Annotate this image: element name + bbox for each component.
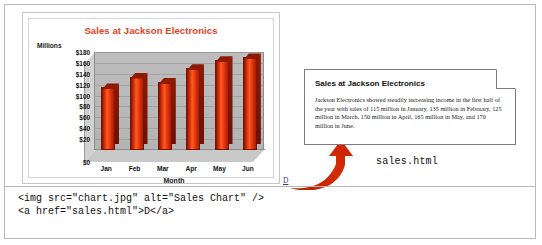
chart-y-tick-label: $20 xyxy=(79,136,90,143)
chart-title: Sales at Jackson Electronics xyxy=(29,25,273,36)
code-line-2: <a href="sales.html">D</a> xyxy=(18,206,174,217)
chart-y-tick-label: $180 xyxy=(76,49,90,56)
chart-bar-side-face xyxy=(114,83,119,144)
chart-floor-edge xyxy=(94,149,265,150)
chart-bar xyxy=(215,60,229,150)
chart-gridline xyxy=(94,85,264,86)
chart-y-tick-label: $60 xyxy=(79,114,90,121)
chart-gridline xyxy=(94,96,264,97)
sales-html-document: Sales at Jackson Electronics Jackson Ele… xyxy=(304,69,516,145)
chart-gridline xyxy=(94,63,264,64)
document-filename-label: sales.html xyxy=(376,156,438,167)
chart-plot-area: $0$20$40$60$80$100$120$140$160$180 JanFe… xyxy=(84,52,264,162)
chart-y-tick-label: $80 xyxy=(79,103,90,110)
chart-y-tick-label: $100 xyxy=(76,92,90,99)
document-heading: Sales at Jackson Electronics xyxy=(315,79,491,88)
chart-bar-side-face xyxy=(143,73,148,145)
chart-x-tick-label: May xyxy=(213,165,226,172)
chart-x-tick-label: Apr xyxy=(185,165,196,172)
chart-x-tick-label: Mar xyxy=(157,165,169,172)
chart-x-tick-label: Jan xyxy=(100,165,111,172)
chart-x-tick-label: Feb xyxy=(129,165,141,172)
chart-gridline xyxy=(94,74,264,75)
chart-bar xyxy=(186,68,200,150)
chart-y-tick-label: $140 xyxy=(76,70,90,77)
chart-back-wall xyxy=(94,52,264,150)
chart-y-axis-title: Millions xyxy=(37,42,62,49)
chart-bar xyxy=(101,87,115,150)
chart-x-axis-title: Month xyxy=(84,177,264,184)
chart-gridline xyxy=(94,117,264,118)
document-body-text: Jackson Electronics showed steadily incr… xyxy=(315,96,505,130)
chart-bar-side-face xyxy=(199,64,204,144)
chart-image-panel: Sales at Jackson Electronics Millions $0… xyxy=(22,12,280,184)
chart-gridline xyxy=(94,52,264,53)
chart-inner-border: Sales at Jackson Electronics Millions $0… xyxy=(28,18,274,178)
chart-y-tick-label: $160 xyxy=(76,59,90,66)
chart-gridline xyxy=(94,106,264,107)
chart-bar xyxy=(243,57,257,150)
chart-bar xyxy=(130,77,144,151)
chart-gridline xyxy=(94,139,264,140)
chart-gridline xyxy=(94,128,264,129)
chart-bar-side-face xyxy=(228,56,233,144)
chart-bar-side-face xyxy=(256,53,261,144)
chart-bar-side-face xyxy=(171,78,176,144)
chart-x-tick-label: Jun xyxy=(242,165,254,172)
chart-y-tick-label: $0 xyxy=(83,159,90,166)
chart-bar xyxy=(158,82,172,150)
code-line-1: <img src="chart.jpg" alt="Sales Chart" /… xyxy=(18,193,264,204)
code-divider xyxy=(5,186,536,187)
chart-y-tick-label: $120 xyxy=(76,81,90,88)
chart-y-tick-label: $40 xyxy=(79,125,90,132)
html-code-snippet: <img src="chart.jpg" alt="Sales Chart" /… xyxy=(18,192,264,218)
